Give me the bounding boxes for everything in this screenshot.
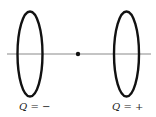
midpoint-dot xyxy=(76,52,80,56)
charge-symbol: Q xyxy=(112,101,120,112)
charge-sign-positive: + xyxy=(135,101,143,112)
ring-diagram xyxy=(0,0,156,117)
equals-sign: = xyxy=(120,101,135,112)
equals-sign: = xyxy=(27,101,42,112)
charge-sign-negative: − xyxy=(42,101,50,112)
left-ring-label: Q = − xyxy=(19,101,50,112)
charge-symbol: Q xyxy=(19,101,27,112)
right-ring-label: Q = + xyxy=(112,101,143,112)
